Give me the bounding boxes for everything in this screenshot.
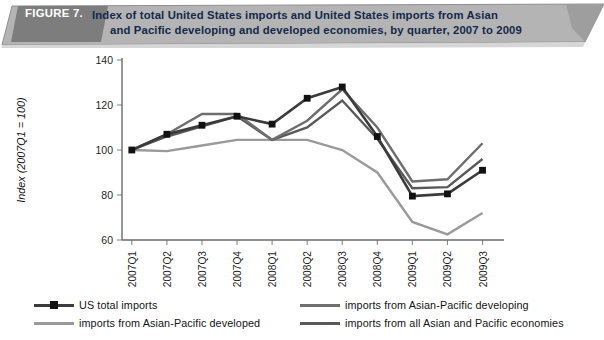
series-line-3 [132,101,483,189]
x-tick-label: 2008Q1 [267,251,278,288]
legend-line-icon [300,304,340,307]
x-tick-label: 2007Q2 [162,251,173,288]
data-point-marker [339,84,346,91]
legend-swatch-icon [34,298,74,312]
y-tick-label: 140 [95,54,113,66]
legend-column-right: imports from Asian-Pacific developing im… [300,297,564,333]
y-tick-label: 100 [95,144,113,156]
figure-number-label: FIGURE 7. [25,7,83,19]
data-point-marker [444,190,451,197]
data-point-marker [304,95,311,102]
x-tick-label: 2008Q4 [372,251,383,288]
data-point-marker [163,131,170,138]
cropped-body-text [0,333,604,340]
y-tick-label: 120 [95,99,113,111]
legend-swatch-icon [300,316,340,330]
legend-item-asian-pacific-developed[interactable]: imports from Asian-Pacific developed [34,315,260,331]
legend-column-left: US total imports imports from Asian-Paci… [34,297,260,333]
data-point-marker [269,121,276,128]
legend-item-all-asian-pacific-economies[interactable]: imports from all Asian and Pacific econo… [300,315,564,331]
legend-label-asian-pacific-developed: imports from Asian-Pacific developed [79,317,260,329]
x-tick-label: 2008Q3 [337,251,348,288]
legend-square-marker-icon [50,301,58,309]
x-tick-label: 2009Q2 [442,251,453,288]
legend-swatch-icon [34,316,74,330]
x-tick-label: 2009Q3 [478,251,489,288]
legend-label-asian-pacific-developing: imports from Asian-Pacific developing [345,299,529,311]
series-line-2 [132,89,483,181]
figure-title-line-1: Index of total United States imports and… [92,8,562,23]
data-point-marker [199,122,206,129]
legend-swatch-icon [300,298,340,312]
legend-label-all-asian-pacific-economies: imports from all Asian and Pacific econo… [345,317,564,329]
chart-container: Index (2007Q1 = 100) 6080100120140 2007Q… [0,48,604,298]
y-axis-title-group: Index (2007Q1 = 100) [15,97,27,202]
x-axis-ticks: 2007Q12007Q22007Q32007Q42008Q12008Q22008… [127,240,489,287]
chart-legend: US total imports imports from Asian-Paci… [0,297,604,333]
figure-title-line-2: and Pacific developing and developed eco… [92,23,562,38]
legend-line-icon [34,322,74,325]
x-tick-label: 2009Q1 [407,251,418,288]
x-tick-label: 2007Q1 [127,251,138,288]
y-axis-title: Index (2007Q1 = 100) [15,97,27,202]
legend-line-icon [300,322,340,325]
series-group [132,87,483,234]
y-axis-ticks: 6080100120140 [95,54,122,246]
figure-header-banner: FIGURE 7. Index of total United States i… [0,2,604,46]
legend-item-asian-pacific-developing[interactable]: imports from Asian-Pacific developing [300,297,564,313]
x-tick-label: 2007Q3 [197,251,208,288]
data-point-marker [479,167,486,174]
x-tick-label: 2007Q4 [232,251,243,288]
y-tick-label: 60 [101,234,113,246]
y-tick-label: 80 [101,189,113,201]
x-tick-label: 2008Q2 [302,251,313,288]
data-point-marker [234,113,241,120]
legend-label-us-total-imports: US total imports [79,299,157,311]
figure-title: Index of total United States imports and… [92,8,562,37]
line-chart: Index (2007Q1 = 100) 6080100120140 2007Q… [0,48,604,298]
data-point-marker [409,193,416,200]
legend-item-us-total-imports[interactable]: US total imports [34,297,260,313]
data-point-marker [128,147,135,154]
marker-group [128,84,486,200]
data-point-marker [374,133,381,140]
